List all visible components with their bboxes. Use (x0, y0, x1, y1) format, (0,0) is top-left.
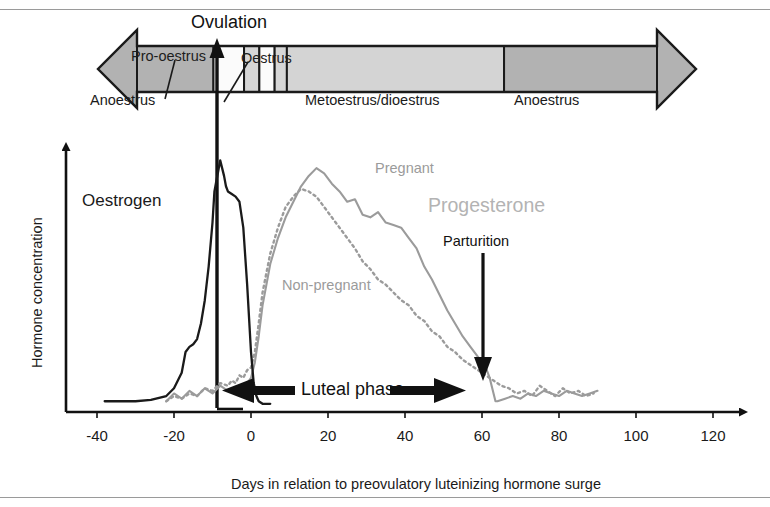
x-axis-tick-label: -40 (67, 428, 127, 443)
parturition-marker (474, 253, 492, 381)
oestrus-callout-label: Oestrus (241, 51, 292, 66)
x-axis-tick-label: 40 (375, 428, 435, 443)
parturition-label: Parturition (443, 234, 509, 249)
phase-label-anoestrus-left: Anoestrus (90, 93, 155, 108)
pregnant-label: Pregnant (375, 161, 434, 176)
luteal-phase-label: Luteal phase (301, 380, 404, 398)
ovulation-label: Ovulation (191, 13, 267, 31)
y-axis-title: Hormone concentration (30, 217, 45, 368)
cycle-bar-segment (287, 46, 504, 92)
non-pregnant-label: Non-pregnant (282, 278, 371, 293)
x-axis-tick-label: 120 (683, 428, 743, 443)
x-axis-tick-label: 0 (221, 428, 281, 443)
phase-label-metoestrus-dioestrus: Metoestrus/dioestrus (305, 93, 440, 108)
pro-oestrus-callout-label: Pro-oestrus (131, 49, 206, 64)
cycle-bar-segment (504, 46, 657, 92)
x-axis-tick-label: 80 (529, 428, 589, 443)
plot-axes (66, 150, 740, 412)
hormone-cycle-figure: Ovulation Pro-oestrus Oestrus Anoestrus … (0, 0, 770, 507)
x-axis-tick-label: 20 (298, 428, 358, 443)
oestrogen-label: Oestrogen (82, 192, 161, 209)
progesterone-label: Progesterone (428, 196, 545, 216)
x-axis-tick-label: -20 (144, 428, 204, 443)
cycle-bar-right-arrowhead (657, 30, 696, 108)
x-axis-tick-label: 100 (606, 428, 666, 443)
phase-label-anoestrus-right: Anoestrus (514, 93, 579, 108)
x-axis-title: Days in relation to preovulatory luteini… (231, 477, 601, 492)
progesterone-non-pregnant-curve (166, 189, 593, 401)
x-axis-tick-label: 60 (452, 428, 512, 443)
